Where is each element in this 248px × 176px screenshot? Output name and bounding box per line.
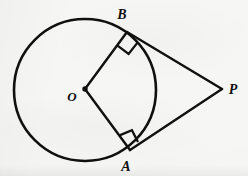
geometry-figure: O B A P	[0, 0, 248, 176]
label-external-point-p: P	[229, 82, 238, 97]
diagram-canvas: O B A P	[0, 0, 248, 176]
label-tangent-point-a: A	[120, 159, 130, 174]
center-point-dot	[82, 86, 87, 91]
radius-segment-oa	[85, 89, 130, 150]
label-tangent-point-b: B	[116, 7, 126, 22]
tangent-segment-ap	[130, 89, 222, 150]
label-center-o: O	[67, 89, 77, 104]
right-angle-marker-b	[117, 43, 137, 54]
tangent-segment-bp	[127, 32, 222, 89]
radius-segment-ob	[85, 32, 127, 89]
